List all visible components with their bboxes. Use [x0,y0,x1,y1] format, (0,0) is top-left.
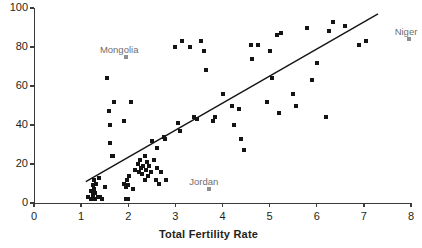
y-tick-label: 0 [0,196,28,208]
x-axis-title: Total Fertility Rate [0,228,417,240]
x-tick-label: 4 [208,210,238,222]
data-point [230,104,234,108]
data-point [265,100,269,104]
data-point [127,174,131,178]
data-point [155,146,159,150]
data-point [327,29,331,33]
data-point [108,123,112,127]
data-point [107,109,111,113]
data-point [213,115,217,119]
data-point [97,176,101,180]
data-point [159,170,163,174]
data-point [146,174,150,178]
data-point [305,26,309,30]
x-tick-mark [222,203,223,207]
data-point [103,185,107,189]
y-tick-label: 100 [0,1,28,13]
x-tick-mark [363,203,364,207]
highlighted-data-point [124,55,128,59]
data-point [211,119,215,123]
data-point [157,182,161,186]
data-point [256,43,260,47]
x-tick-label: 7 [349,210,379,222]
data-point [131,187,135,191]
data-point [331,20,335,24]
data-point [204,68,208,72]
x-tick-label: 8 [396,210,422,222]
data-point [126,197,130,201]
point-label-niger: Niger [395,26,418,37]
data-point [199,39,203,43]
point-label-jordan: Jordan [189,176,218,187]
y-tick-label: 20 [0,157,28,169]
data-point [94,182,98,186]
x-tick-mark [175,203,176,207]
x-tick-mark [269,203,270,207]
y-tick-label: 80 [0,40,28,52]
data-point [343,24,347,28]
x-tick-mark [410,203,411,207]
data-point [138,158,142,162]
data-point [324,115,328,119]
data-point [294,104,298,108]
x-tick-label: 5 [255,210,285,222]
data-point [310,78,314,82]
data-point [112,100,116,104]
data-point [357,43,361,47]
x-tick-mark [80,203,81,207]
data-point [232,123,236,127]
data-point [270,76,274,80]
data-point [163,137,167,141]
data-point [100,197,104,201]
y-axis-line [34,8,35,204]
data-point [129,100,133,104]
data-point [143,154,147,158]
data-point [250,57,254,61]
y-tick-mark [30,85,34,86]
highlighted-data-point [207,187,211,191]
x-tick-mark [128,203,129,207]
y-tick-label: 60 [0,79,28,91]
data-point [195,117,199,121]
x-tick-label: 2 [113,210,143,222]
data-point [126,183,130,187]
x-tick-label: 6 [302,210,332,222]
data-point [105,76,109,80]
data-point [155,166,159,170]
data-point [173,45,177,49]
data-point [277,111,281,115]
data-point [125,178,129,182]
point-label-mongolia: Mongolia [100,44,139,55]
x-tick-label: 0 [19,210,49,222]
data-point [178,129,182,133]
data-point [176,121,180,125]
x-tick-mark [316,203,317,207]
data-point [149,170,153,174]
data-point [237,107,241,111]
data-point [239,137,243,141]
data-point [315,61,319,65]
y-tick-mark [30,124,34,125]
data-point [89,197,93,201]
data-point [108,141,112,145]
data-point [143,178,147,182]
data-point [188,45,192,49]
data-point [202,49,206,53]
data-point [150,139,154,143]
data-point [291,92,295,96]
data-point [144,168,148,172]
data-point [221,92,225,96]
data-point [180,39,184,43]
x-tick-label: 1 [66,210,96,222]
data-point [147,164,151,168]
data-point [268,49,272,53]
data-point [279,31,283,35]
data-point [152,158,156,162]
data-point [122,119,126,123]
y-tick-label: 40 [0,118,28,130]
data-point [164,178,168,182]
data-point [364,39,368,43]
data-point [140,172,144,176]
y-tick-mark [30,163,34,164]
